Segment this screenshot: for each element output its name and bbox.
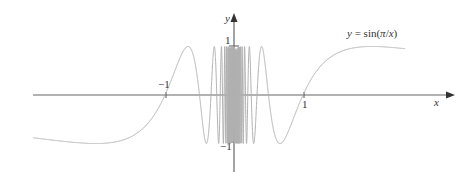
curve-equation-label: y = sin(π/x) (346, 27, 398, 40)
x-axis-arrow-icon (446, 92, 455, 99)
eq-sin: = sin( (352, 27, 381, 40)
x-tick-label-neg1: −1 (158, 78, 170, 90)
x-tick-label-pos1: 1 (302, 98, 308, 110)
y-tick-label-pos1: 1 (225, 34, 231, 46)
y-axis-arrow-icon (231, 13, 238, 22)
eq-close: ) (394, 27, 398, 40)
y-axis-label: y (224, 12, 230, 24)
x-axis-label: x (433, 96, 439, 108)
y-tick-label-neg1: −1 (220, 140, 232, 152)
sin-pi-over-x-plot: −1 1 1 −1 y x y = sin(π/x) (0, 0, 460, 173)
